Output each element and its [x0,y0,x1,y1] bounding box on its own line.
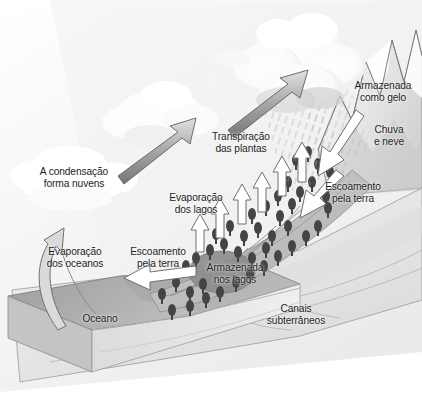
diagram-artwork [0,0,422,406]
water-cycle-diagram: A condensação forma nuvens Transpiração … [0,0,422,406]
